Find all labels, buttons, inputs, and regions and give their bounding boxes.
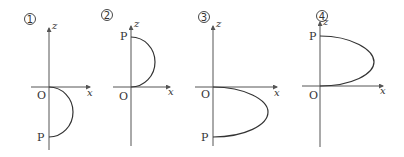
origin-label: O <box>37 89 46 102</box>
x-axis-label: x <box>87 87 93 98</box>
path-curve <box>131 37 155 87</box>
z-axis-label: z <box>133 18 140 29</box>
panel-2: 2 z x O P <box>102 10 175 147</box>
panel-number: 1 <box>27 14 33 25</box>
origin-label: O <box>201 88 210 101</box>
x-axis-label: x <box>274 87 280 98</box>
origin-label: O <box>119 90 128 103</box>
point-p-label: P <box>37 131 45 144</box>
z-axis-label: z <box>51 20 58 31</box>
x-axis-label: x <box>168 86 174 97</box>
point-p-label: P <box>309 30 317 43</box>
origin-label: O <box>309 89 318 102</box>
path-curve <box>213 87 268 137</box>
panel-1: 1 z x O P <box>25 14 94 151</box>
z-axis-label: z <box>215 18 222 29</box>
panel-3: 3 z x O P <box>195 12 280 147</box>
panel-4: 4 z x O P <box>302 11 386 148</box>
x-axis-label: x <box>380 85 386 96</box>
point-p-label: P <box>120 30 128 43</box>
point-p-label: P <box>201 131 209 144</box>
panel-number: 2 <box>104 10 110 21</box>
figure-canvas: 1 z x O P 2 z x O P 3 z x O P 4 z <box>0 0 404 157</box>
path-curve <box>49 87 73 137</box>
panel-number: 3 <box>201 12 207 23</box>
path-curve <box>320 36 374 86</box>
z-axis-label: z <box>322 16 329 27</box>
